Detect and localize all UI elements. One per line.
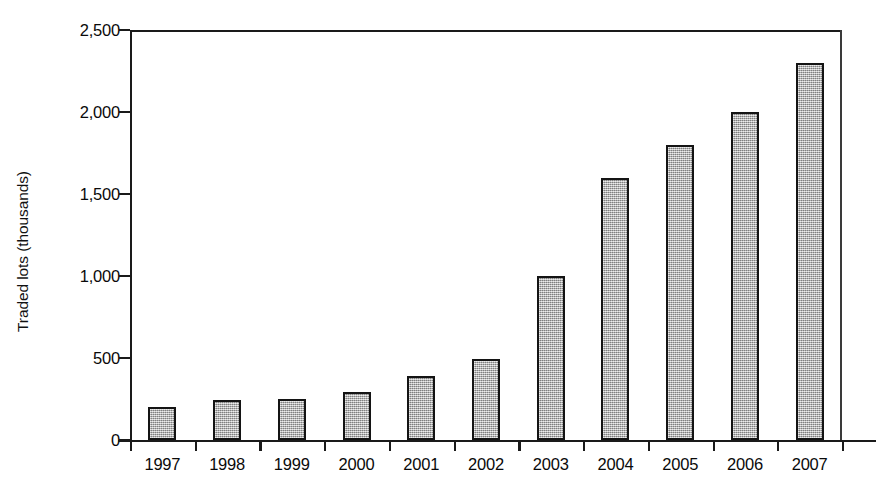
x-axis-tick-mark	[324, 440, 326, 451]
x-axis-baseline	[118, 440, 876, 442]
bar	[407, 376, 435, 440]
x-axis-tick-label: 2004	[598, 455, 634, 474]
bar	[343, 392, 371, 440]
y-axis-tick-label: 2,500	[80, 21, 120, 40]
y-axis-title: Traded lots (thousands)	[0, 0, 46, 503]
x-axis-tick-label: 2001	[403, 455, 439, 474]
x-axis-tick-mark	[713, 440, 715, 451]
y-axis-tick-label: 1,000	[80, 267, 120, 286]
x-axis-tick-label: 2007	[792, 455, 828, 474]
x-axis-tick-label: 1997	[144, 455, 180, 474]
bar	[278, 399, 306, 440]
y-axis-tick-mark	[119, 29, 130, 31]
bar	[537, 276, 565, 440]
bar-series	[130, 30, 842, 440]
x-axis-tick-mark	[454, 440, 456, 451]
y-axis-tick-label: 2,000	[80, 103, 120, 122]
x-axis-tick-label: 1999	[274, 455, 310, 474]
bar	[472, 359, 500, 440]
bar	[796, 63, 824, 440]
x-axis-tick-mark	[842, 440, 844, 451]
bar-chart-figure: Traded lots (thousands) 05001,0001,5002,…	[0, 0, 876, 503]
bar	[666, 145, 694, 440]
bar	[731, 112, 759, 440]
y-axis-tick-label: 500	[93, 349, 120, 368]
x-axis-tick-mark	[648, 440, 650, 451]
x-axis-tick-labels: 1997199819992000200120022003200420052006…	[130, 455, 842, 485]
x-axis-tick-mark	[518, 440, 520, 451]
y-axis-tick-mark	[119, 111, 130, 113]
x-axis-tick-label: 1998	[209, 455, 245, 474]
x-axis-tick-mark	[195, 440, 197, 451]
y-axis-tick-mark	[119, 275, 130, 277]
x-axis-tick-mark	[389, 440, 391, 451]
bar	[148, 407, 176, 440]
x-axis-tick-label: 2003	[533, 455, 569, 474]
x-axis-tick-label: 2000	[339, 455, 375, 474]
y-axis-tick-mark	[119, 357, 130, 359]
y-axis-tick-labels: 05001,0001,5002,0002,500	[44, 30, 120, 440]
x-axis-tick-mark	[777, 440, 779, 451]
y-axis-tick-mark	[119, 193, 130, 195]
x-axis-tick-mark	[130, 440, 132, 451]
y-axis-tick-mark	[119, 439, 130, 441]
x-axis-tick-mark	[259, 440, 261, 451]
bar	[213, 400, 241, 440]
x-axis-tick-label: 2002	[468, 455, 504, 474]
y-axis-tick-label: 1,500	[80, 185, 120, 204]
x-axis-tick-label: 2005	[662, 455, 698, 474]
x-axis-tick-mark	[583, 440, 585, 451]
bar	[601, 178, 629, 440]
x-axis-tick-label: 2006	[727, 455, 763, 474]
